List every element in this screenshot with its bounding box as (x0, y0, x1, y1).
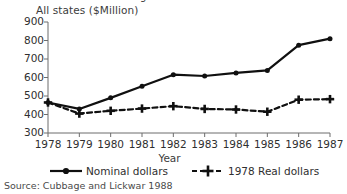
y-tick-label: 300 (14, 126, 44, 138)
data-point-marker (296, 43, 301, 48)
y-tick-label: 900 (14, 15, 44, 27)
data-point-marker (202, 74, 207, 79)
x-tick-label: 1982 (156, 138, 190, 150)
x-tick-label: 1986 (282, 138, 316, 150)
y-tick-label: 600 (14, 71, 44, 83)
data-point-marker (44, 98, 52, 106)
y-tick-label: 500 (14, 89, 44, 101)
x-tick-label: 1984 (219, 138, 253, 150)
data-point-marker (232, 105, 240, 113)
data-point-marker (106, 107, 114, 115)
data-point-marker (328, 36, 333, 41)
chart-legend: Nominal dollars 1978 Real dollars (0, 163, 339, 179)
x-tick-label: 1985 (250, 138, 284, 150)
data-point-marker (171, 72, 176, 77)
x-tick-label: 1979 (62, 138, 96, 150)
legend-swatch-solid-circle (48, 164, 84, 178)
data-point-marker (138, 104, 146, 112)
legend-entry-real: 1978 Real dollars (190, 163, 319, 179)
x-tick-label: 1983 (188, 138, 222, 150)
source-note: Source: Cubbage and Lickwar 1988 (4, 180, 173, 191)
x-tick-label: 1987 (313, 138, 347, 150)
y-tick-label: 700 (14, 52, 44, 64)
data-point-marker (75, 109, 83, 117)
legend-label-real: 1978 Real dollars (228, 165, 319, 177)
data-point-marker (140, 84, 145, 89)
x-tick-label: 1980 (94, 138, 128, 150)
data-point-marker (265, 68, 270, 73)
series-line (48, 39, 330, 109)
data-point-marker (263, 108, 271, 116)
data-point-marker (234, 70, 239, 75)
legend-label-nominal: Nominal dollars (86, 165, 168, 177)
data-point-marker (294, 96, 302, 104)
x-tick-label: 1981 (125, 138, 159, 150)
legend-swatch-dashed-plus (190, 164, 226, 178)
data-point-marker (326, 95, 334, 103)
series-line (48, 99, 330, 113)
y-tick-label: 400 (14, 108, 44, 120)
data-point-marker (108, 95, 113, 100)
axes (44, 22, 330, 137)
data-point-marker (169, 102, 177, 110)
y-tick-label: 800 (14, 34, 44, 46)
data-point-marker (200, 105, 208, 113)
legend-entry-nominal: Nominal dollars (48, 163, 168, 179)
data-series (44, 36, 334, 118)
x-tick-label: 1978 (31, 138, 65, 150)
